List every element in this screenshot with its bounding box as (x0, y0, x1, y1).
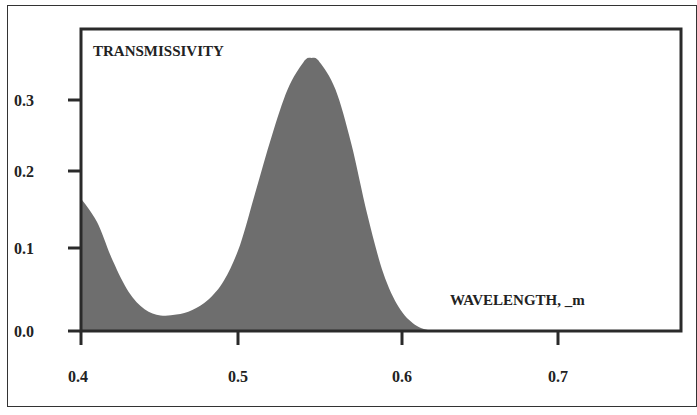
y-axis-ticks (68, 100, 81, 331)
y-tick-label: 0.0 (14, 323, 34, 340)
x-tick-label: 0.5 (228, 368, 248, 385)
x-axis-ticks (81, 331, 558, 345)
y-tick-label: 0.2 (14, 163, 34, 180)
y-tick-label: 0.1 (14, 240, 34, 257)
y-axis-label: TRANSMISSIVITY (93, 43, 224, 59)
x-tick-label: 0.6 (392, 368, 412, 385)
transmissivity-area (81, 58, 431, 331)
y-tick-label: 0.3 (14, 92, 34, 109)
x-tick-label: 0.4 (68, 368, 88, 385)
x-axis-label: WAVELENGTH, _m (450, 292, 585, 308)
x-tick-label: 0.7 (548, 368, 568, 385)
